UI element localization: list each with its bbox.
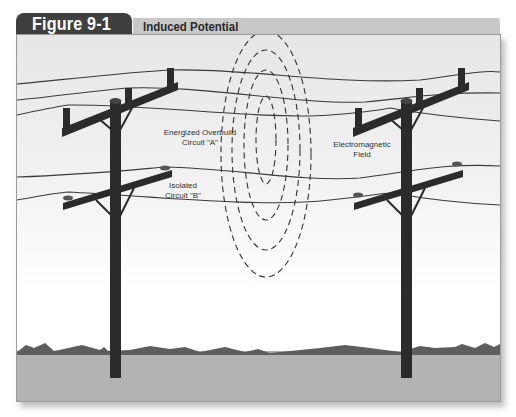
circuit-a-label-line2: Circuit "A"	[150, 138, 250, 148]
right-utility-pole	[353, 68, 469, 378]
field-label-line1: Electromagnetic	[322, 140, 402, 150]
ground	[17, 351, 500, 401]
insulator	[63, 108, 70, 130]
field-label-line2: Field	[322, 150, 402, 160]
insulator	[125, 88, 132, 108]
insulator	[458, 68, 465, 88]
insulator	[355, 108, 362, 130]
circuit-a-wires	[17, 70, 500, 121]
circuit-b-label-line2: Circuit "B"	[148, 191, 218, 201]
circuit-b-label: Isolated Circuit "B"	[148, 181, 218, 201]
circuit-a-label-line1: Energized Overbuild	[150, 128, 250, 138]
electromagnetic-field-rings	[221, 31, 311, 277]
circuit-a-label: Energized Overbuild Circuit "A"	[150, 128, 250, 148]
electromagnetic-field-label: Electromagnetic Field	[322, 140, 402, 160]
power-line-diagram	[0, 0, 516, 417]
insulator	[353, 193, 363, 198]
right-pole-shaft	[401, 100, 412, 378]
distant-hills-silhouette	[17, 343, 500, 355]
circuit-b-label-line1: Isolated	[148, 181, 218, 191]
insulator	[452, 162, 462, 167]
insulator	[167, 68, 174, 88]
left-pole-shaft	[110, 100, 121, 378]
insulator	[160, 166, 170, 171]
insulator	[416, 88, 423, 108]
insulator	[63, 196, 73, 201]
left-utility-pole	[62, 68, 178, 378]
